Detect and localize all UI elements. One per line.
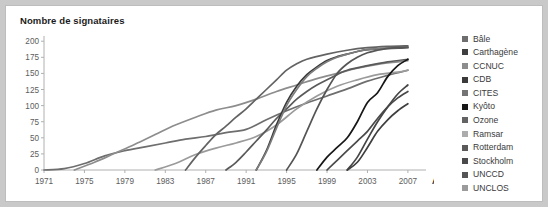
legend-swatch-icon	[462, 104, 468, 110]
x-tick-label: 1999	[318, 177, 337, 186]
y-tick-label: 125	[25, 86, 39, 95]
legend-swatch-icon	[462, 36, 468, 42]
legend-item[interactable]: Carthagène	[462, 46, 548, 60]
x-tick-label: 1995	[277, 177, 296, 186]
legend-label: CITES	[473, 89, 498, 98]
legend-item[interactable]: Bâle	[462, 32, 548, 46]
y-tick-label: 175	[25, 53, 39, 62]
legend-label: UNCLOS	[473, 184, 509, 193]
legend-item[interactable]: Stockholm	[462, 154, 548, 168]
screenshot-root: Nombre de signataires 025507510012515017…	[0, 0, 548, 207]
x-tick-label: 1983	[156, 177, 175, 186]
legend-swatch-icon	[462, 158, 468, 164]
legend-item[interactable]: CITES	[462, 86, 548, 100]
legend-label: Ozone	[473, 116, 498, 125]
legend-swatch-icon	[462, 185, 468, 191]
x-axis-label: Année	[432, 176, 434, 186]
legend-item[interactable]: Ramsar	[462, 127, 548, 141]
y-tick-label: 200	[25, 37, 39, 46]
legend-swatch-icon	[462, 90, 468, 96]
x-tick-label: 1975	[75, 177, 94, 186]
x-tick-label: 1991	[237, 177, 256, 186]
legend-label: CDB	[473, 75, 491, 84]
legend-item[interactable]: Ozone	[462, 114, 548, 128]
x-tick-label: 1979	[116, 177, 135, 186]
series-line-cites	[74, 61, 408, 170]
line-chart: 0255075100125150175200197119751979198319…	[14, 30, 434, 198]
legend-swatch-icon	[462, 145, 468, 151]
y-tick-label: 50	[30, 134, 40, 143]
legend-label: Carthagène	[473, 48, 518, 57]
legend-label: Kyôto	[473, 102, 495, 111]
chart-panel: Nombre de signataires 025507510012515017…	[6, 6, 542, 201]
legend-swatch-icon	[462, 117, 468, 123]
y-tick-label: 75	[30, 118, 40, 127]
legend-item[interactable]: Kyôto	[462, 100, 548, 114]
legend-label: Ramsar	[473, 130, 503, 139]
legend-label: Rotterdam	[473, 143, 513, 152]
legend-swatch-icon	[462, 172, 468, 178]
legend-swatch-icon	[462, 49, 468, 55]
page-title: Nombre de signataires	[20, 15, 125, 26]
legend-item[interactable]: UNCLOS	[462, 182, 548, 196]
legend-swatch-icon	[462, 131, 468, 137]
series-line-unclos	[155, 70, 408, 170]
series-line-ramsar	[44, 70, 408, 170]
legend-item[interactable]: CCNUC	[462, 59, 548, 73]
x-tick-label: 2003	[358, 177, 377, 186]
legend-label: Stockholm	[473, 157, 513, 166]
legend-label: CCNUC	[473, 62, 504, 71]
legend-item[interactable]: Rotterdam	[462, 141, 548, 155]
legend-swatch-icon	[462, 63, 468, 69]
y-tick-label: 25	[30, 150, 40, 159]
chart-legend: BâleCarthagèneCCNUCCDBCITESKyôtoOzoneRam…	[462, 32, 548, 195]
legend-label: UNCCD	[473, 170, 504, 179]
x-tick-label: 1971	[35, 177, 54, 186]
legend-label: Bâle	[473, 35, 490, 44]
x-tick-label: 2007	[399, 177, 418, 186]
legend-item[interactable]: UNCCD	[462, 168, 548, 182]
y-tick-label: 100	[25, 102, 39, 111]
legend-swatch-icon	[462, 77, 468, 83]
x-tick-label: 1987	[197, 177, 216, 186]
y-tick-label: 150	[25, 69, 39, 78]
y-tick-label: 0	[34, 166, 39, 175]
plot-area: 0255075100125150175200197119751979198319…	[14, 30, 434, 198]
legend-item[interactable]: CDB	[462, 73, 548, 87]
